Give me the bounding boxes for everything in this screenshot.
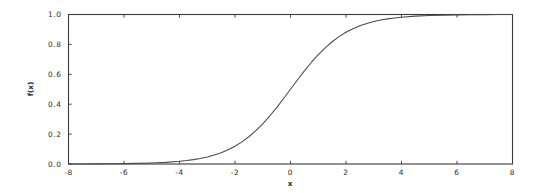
- x-axis-label: x: [288, 179, 293, 188]
- y-tick-label: 0.8: [48, 40, 62, 49]
- x-tick-label: -2: [231, 168, 240, 177]
- x-tick-label: 6: [454, 168, 459, 177]
- y-tick-label: 0.2: [48, 130, 62, 139]
- y-tick-label: 0.6: [48, 70, 62, 79]
- x-tick-label: 8: [510, 168, 515, 177]
- x-axis-tick-labels: -8-6-4-202468: [64, 168, 515, 177]
- sigmoid-plot: 0.00.20.40.60.81.0 -8-6-4-202468 x f(x): [0, 0, 534, 193]
- x-tick-label: -4: [175, 168, 184, 177]
- y-axis-tick-labels: 0.00.20.40.60.81.0: [48, 10, 62, 169]
- x-tick-label: -8: [64, 168, 73, 177]
- x-tick-label: 4: [399, 168, 404, 177]
- y-axis-label: f(x): [26, 82, 35, 96]
- x-tick-label: 0: [288, 168, 293, 177]
- x-tick-label: 2: [343, 168, 348, 177]
- y-tick-label: 1.0: [48, 10, 62, 19]
- x-tick-label: -6: [120, 168, 129, 177]
- y-tick-label: 0.0: [48, 160, 62, 169]
- figure-canvas: 0.00.20.40.60.81.0 -8-6-4-202468 x f(x): [0, 0, 534, 193]
- y-tick-label: 0.4: [48, 100, 62, 109]
